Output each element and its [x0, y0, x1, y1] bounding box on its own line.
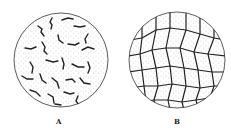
- panel-label-b: B: [174, 117, 180, 126]
- panel-a-circle: [14, 13, 108, 107]
- figure-diagram: [0, 0, 231, 139]
- panel-label-a: A: [56, 117, 61, 126]
- panel-b-circle: [128, 12, 226, 110]
